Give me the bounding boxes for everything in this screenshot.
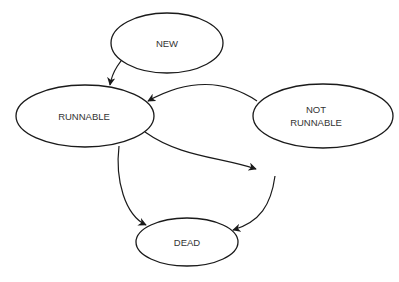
node-new-label: NEW: [156, 38, 178, 49]
node-runnable: RUNNABLE: [16, 85, 154, 147]
edge-not-runnable-to-dead: [233, 176, 275, 230]
node-not-runnable-label-line1: NOT: [306, 104, 326, 115]
state-diagram: NEW RUNNABLE NOT RUNNABLE DEAD: [0, 0, 399, 282]
node-new: NEW: [111, 13, 223, 73]
node-not-runnable-label-line2: RUNNABLE: [290, 117, 342, 128]
node-dead: DEAD: [136, 218, 238, 266]
node-dead-label: DEAD: [174, 237, 201, 248]
edge-not-runnable-to-runnable: [148, 84, 257, 101]
node-runnable-label: RUNNABLE: [58, 111, 110, 122]
edge-runnable-to-dead: [118, 146, 146, 225]
node-not-runnable: NOT RUNNABLE: [253, 84, 393, 148]
edge-runnable-to-not-runnable: [145, 132, 256, 169]
